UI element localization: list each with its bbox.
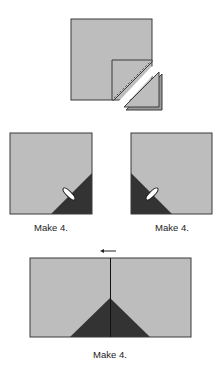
arrow-head-left-icon <box>100 249 104 253</box>
step-3-figure <box>30 249 191 337</box>
caption-bottom: Make 4. <box>70 349 150 361</box>
step-2-left-figure <box>10 133 92 214</box>
step-2-right-figure <box>131 133 212 214</box>
caption-middle-right: Make 4. <box>132 222 212 234</box>
diagram-canvas <box>0 0 216 368</box>
step-1-figure <box>71 19 162 110</box>
caption-middle-left: Make 4. <box>11 222 91 234</box>
